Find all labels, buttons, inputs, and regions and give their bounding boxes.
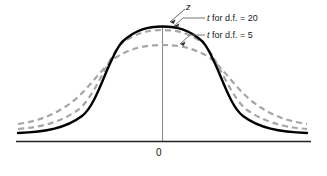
x-axis-tick-label-zero: 0 <box>156 148 162 158</box>
z-curve-label: z <box>186 3 191 12</box>
t-df-20-label: tt for d.f. = 20 for d.f. = 20 <box>207 14 258 23</box>
t-df-5-label: tt for d.f. = 5 for d.f. = 5 <box>207 31 253 40</box>
z-leader-arrow <box>170 9 185 24</box>
t-df-20-leader-arrow <box>174 18 205 28</box>
plot-area <box>0 0 327 176</box>
distribution-comparison-figure: z tt for d.f. = 20 for d.f. = 20 tt for … <box>0 0 327 176</box>
